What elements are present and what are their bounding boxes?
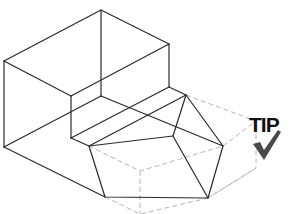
checkmark-icon xyxy=(252,126,282,162)
visible-edges xyxy=(4,10,223,198)
hidden-lines xyxy=(89,95,256,214)
isometric-block-drawing xyxy=(0,0,292,214)
